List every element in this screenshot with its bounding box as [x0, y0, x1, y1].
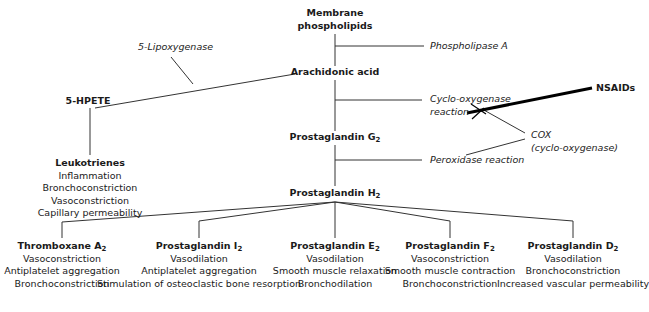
product-prostaglandin-d2: Prostaglandin D2 Vasodilation Bronchocon…	[497, 240, 649, 290]
cox-reaction-line1: Cyclo-oxygenase	[430, 93, 511, 106]
product-effect: Vasodilation	[273, 253, 397, 266]
cox-to-peroxidase-line	[466, 139, 525, 155]
arachidonic-acid-node: Arachidonic acid	[291, 66, 379, 79]
product-effect: Bronchoconstriction	[497, 265, 649, 278]
nsaids-label: NSAIDs	[596, 82, 635, 93]
pgh2-to-pgf2	[335, 202, 450, 221]
product-prostaglandin-e2: Prostaglandin E2 Vasodilation Smooth mus…	[273, 240, 397, 290]
product-effect: Antiplatelet aggregation	[97, 265, 301, 278]
product-prostaglandin-f2: Prostaglandin F2 Vasoconstriction Smooth…	[385, 240, 516, 290]
product-prostaglandin-i2: Prostaglandin I2 Vasodilation Antiplatel…	[97, 240, 301, 290]
cox-reaction-label: Cyclo-oxygenase reaction	[430, 93, 511, 118]
phospholipase-a-label: Phospholipase A	[430, 40, 508, 53]
product-title: Thromboxane A	[18, 240, 102, 251]
cox-reaction-line2: reaction	[430, 106, 511, 119]
product-effect: Bronchodilation	[273, 278, 397, 291]
product-effect: Bronchoconstriction	[385, 278, 516, 291]
product-title: Prostaglandin D	[528, 240, 614, 251]
product-effect: Smooth muscle contraction	[385, 265, 516, 278]
product-title: Prostaglandin I	[156, 240, 238, 251]
prostaglandin-h2-node: Prostaglandin H2	[290, 187, 381, 200]
lipoxygenase-connector	[171, 57, 193, 84]
product-effect: Vasodilation	[97, 253, 301, 266]
cox-enzyme-label: COX (cyclo-oxygenase)	[531, 129, 618, 154]
product-title: Prostaglandin F	[405, 240, 490, 251]
5-hpete-node: 5-HPETE	[66, 95, 111, 108]
leukotrienes-effect: Vasoconstriction	[38, 195, 143, 208]
cox-line1: COX	[531, 129, 618, 142]
product-subscript: 2	[490, 245, 495, 253]
membrane-phospholipids-node: Membrane phospholipids	[298, 7, 373, 32]
aa-to-hpete-line	[95, 74, 295, 108]
leukotrienes-title: Leukotrienes	[38, 157, 143, 170]
product-effect: Vasoconstriction	[385, 253, 516, 266]
pgg2-label: Prostaglandin G	[290, 131, 376, 142]
membrane-line2: phospholipids	[298, 20, 373, 33]
leukotrienes-effect: Inflammation	[38, 170, 143, 183]
peroxidase-reaction-label: Peroxidase reaction	[430, 154, 524, 167]
pgh2-to-pgi2	[199, 202, 335, 221]
membrane-line1: Membrane	[298, 7, 373, 20]
5-hpete-label: 5-HPETE	[66, 95, 111, 108]
product-subscript: 2	[614, 245, 619, 253]
pgh2-subscript: 2	[376, 192, 381, 200]
prostaglandin-g2-node: Prostaglandin G2	[290, 131, 381, 144]
product-subscript: 2	[237, 245, 242, 253]
product-effect: Stimulation of osteoclastic bone resorpt…	[97, 278, 301, 291]
pgh2-to-pgd2	[335, 202, 573, 221]
leukotrienes-effect: Capillary permeability	[38, 207, 143, 220]
leukotrienes-node: Leukotrienes Inflammation Bronchoconstri…	[38, 157, 143, 220]
product-effect: Increased vascular permeability	[497, 278, 649, 291]
pgh2-label: Prostaglandin H	[290, 187, 376, 198]
product-title: Prostaglandin E	[290, 240, 375, 251]
pgg2-subscript: 2	[376, 136, 381, 144]
product-subscript: 2	[375, 245, 380, 253]
product-effect: Smooth muscle relaxation	[273, 265, 397, 278]
product-effect: Vasodilation	[497, 253, 649, 266]
arachidonic-acid-label: Arachidonic acid	[291, 66, 379, 79]
5-lipoxygenase-label: 5-Lipoxygenase	[138, 41, 213, 54]
cox-line2: (cyclo-oxygenase)	[531, 142, 618, 155]
leukotrienes-effect: Bronchoconstriction	[38, 182, 143, 195]
